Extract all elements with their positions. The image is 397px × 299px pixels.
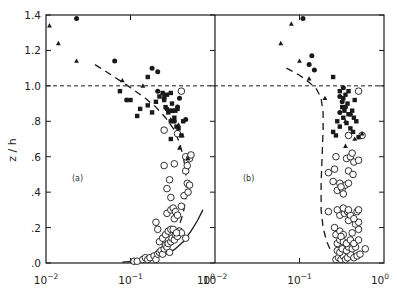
filled-square-marker — [351, 130, 355, 134]
filled-circle-marker — [343, 105, 348, 110]
x-tick-label: 10−2 — [34, 272, 59, 286]
open-circle-marker — [349, 150, 356, 157]
filled-square-marker — [169, 137, 173, 141]
filled-triangle-marker — [47, 23, 52, 27]
open-circle-marker — [173, 230, 180, 237]
open-circle-marker — [331, 224, 338, 231]
open-circle-marker — [178, 88, 185, 95]
filled-triangle-marker — [278, 41, 283, 45]
open-circle-marker — [161, 162, 168, 169]
filled-circle-marker — [150, 66, 155, 71]
open-circle-marker — [166, 176, 173, 183]
filled-triangle-marker — [120, 78, 125, 82]
filled-square-marker — [352, 98, 356, 102]
filled-square-marker — [154, 100, 158, 104]
open-circle-marker — [357, 251, 364, 258]
filled-square-marker — [146, 75, 150, 79]
open-circle-marker — [154, 226, 161, 233]
open-circle-marker — [153, 219, 160, 226]
open-circle-marker — [338, 233, 345, 240]
filled-square-marker — [138, 107, 142, 111]
open-circle-marker — [174, 212, 181, 219]
filled-triangle-marker — [56, 41, 61, 45]
filled-square-marker — [150, 110, 154, 114]
filled-circle-marker — [337, 110, 342, 115]
filled-square-marker — [341, 116, 345, 120]
model-curves — [95, 65, 332, 263]
filled-triangle-marker — [74, 58, 79, 62]
open-circle-marker — [164, 185, 171, 192]
filled-circle-marker — [155, 89, 160, 94]
filled-circle-marker — [341, 85, 346, 90]
filled-triangle-marker — [343, 143, 348, 147]
open-circle-marker — [355, 237, 362, 244]
open-circle-marker — [350, 171, 357, 178]
data-points — [47, 16, 368, 264]
open-circle-marker — [334, 207, 341, 214]
filled-square-marker — [338, 124, 342, 128]
filled-circle-marker — [307, 62, 312, 67]
open-circle-marker — [186, 182, 193, 189]
x-tick-label: 100 — [371, 272, 389, 286]
open-circle-marker — [355, 157, 362, 164]
filled-circle-marker — [309, 53, 314, 58]
filled-circle-marker — [171, 108, 176, 113]
filled-triangle-marker — [289, 21, 294, 25]
open-circle-marker — [338, 184, 345, 191]
filled-circle-marker — [312, 67, 317, 72]
axis-labels: z / h (a) (b) .0.2.4.6.81.01.21.410−210−… — [6, 9, 389, 286]
open-circle-marker — [184, 162, 191, 169]
y-tick-label: .4 — [31, 186, 41, 198]
panel-b-label: (b) — [243, 174, 254, 183]
open-circle-marker — [325, 169, 332, 176]
figure: z / h (a) (b) .0.2.4.6.81.01.21.410−210−… — [0, 0, 397, 299]
filled-square-marker — [334, 133, 338, 137]
filled-circle-marker — [348, 112, 353, 117]
open-circle-marker — [166, 249, 173, 256]
open-circle-marker — [345, 132, 352, 139]
filled-circle-marker — [337, 94, 342, 99]
y-tick-label: .6 — [31, 151, 41, 163]
open-circle-marker — [355, 88, 362, 95]
y-tick-label: .2 — [31, 222, 41, 234]
filled-square-marker — [356, 135, 360, 139]
filled-circle-marker — [155, 69, 160, 74]
filled-circle-marker — [300, 16, 305, 21]
filled-circle-marker — [175, 105, 180, 110]
panel-a-label: (a) — [72, 174, 83, 183]
open-circle-marker — [349, 230, 356, 237]
open-circle-marker — [345, 180, 352, 187]
y-tick-label: .8 — [31, 115, 41, 127]
open-circle-marker — [182, 235, 189, 242]
open-circle-marker — [345, 207, 352, 214]
filled-square-marker — [146, 103, 150, 107]
filled-circle-marker — [124, 98, 129, 103]
filled-circle-marker — [74, 16, 79, 21]
open-circle-marker — [161, 127, 168, 134]
x-tick-label: 10−1 — [287, 272, 312, 286]
y-tick-label: 1.4 — [24, 9, 41, 21]
filled-circle-marker — [183, 117, 188, 122]
filled-square-marker — [331, 75, 335, 79]
filled-circle-marker — [177, 96, 182, 101]
open-circle-marker — [171, 161, 178, 168]
filled-square-marker — [346, 89, 350, 93]
open-circle-marker — [351, 215, 358, 222]
filled-square-marker — [335, 119, 339, 123]
open-circle-marker — [340, 191, 347, 198]
y-tick-label: .0 — [31, 257, 41, 269]
x-tick-label: 10−1 — [118, 272, 143, 286]
filled-triangle-marker — [307, 76, 312, 80]
y-axis-label: z / h — [6, 138, 19, 161]
filled-circle-marker — [340, 99, 345, 104]
open-circle-marker — [168, 194, 175, 201]
open-circle-marker — [355, 207, 362, 214]
filled-square-marker — [170, 101, 174, 105]
filled-square-marker — [169, 91, 173, 95]
y-tick-label: 1.2 — [24, 44, 41, 56]
filled-square-marker — [354, 119, 358, 123]
open-circle-marker — [331, 166, 338, 173]
open-circle-marker — [178, 203, 185, 210]
filled-square-marker — [118, 89, 122, 93]
y-tick-label: 1.0 — [24, 80, 41, 92]
